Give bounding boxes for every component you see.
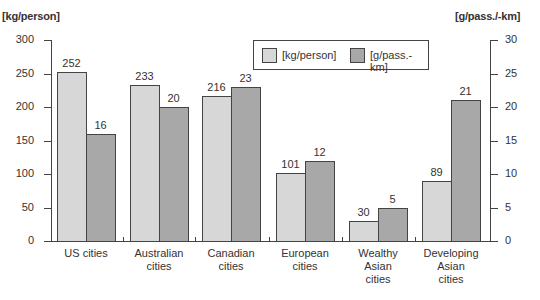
bar-kg-per-person [349, 221, 379, 241]
category-separator-tick [342, 237, 343, 241]
value-label: 20 [154, 92, 194, 104]
value-label: 252 [52, 57, 92, 69]
right-tick-mark [491, 241, 498, 242]
legend-swatch-kg [262, 48, 277, 63]
value-label: 16 [81, 119, 121, 131]
left-tick-label: 0 [4, 234, 34, 246]
category-separator-tick [195, 237, 196, 241]
right-tick-label: 30 [505, 33, 535, 45]
bar-kg-per-person [422, 181, 452, 241]
legend-label-kg: [kg/person] [282, 49, 336, 61]
value-label: 12 [300, 146, 340, 158]
bar-g-per-pass-km [305, 161, 335, 241]
category-separator-tick [415, 237, 416, 241]
right-tick-label: 20 [505, 100, 535, 112]
left-tick-mark [44, 107, 51, 108]
left-tick-label: 300 [4, 33, 34, 45]
right-tick-mark [491, 174, 498, 175]
right-tick-label: 15 [505, 134, 535, 146]
value-label: 21 [446, 85, 486, 97]
category-separator-tick [123, 237, 124, 241]
bar-kg-per-person [276, 173, 306, 241]
category-label: WealthyAsiancities [343, 247, 413, 286]
legend: [kg/person] [g/pass.-km] [253, 40, 429, 70]
bar-g-per-pass-km [231, 87, 261, 241]
right-tick-label: 5 [505, 201, 535, 213]
left-tick-label: 100 [4, 167, 34, 179]
right-axis-label: [g/pass./-km] [455, 10, 520, 22]
category-label: Australiancities [124, 247, 194, 273]
bar-g-per-pass-km [86, 134, 116, 241]
bar-kg-per-person [130, 85, 160, 241]
left-tick-mark [44, 74, 51, 75]
left-axis-label: [kg/person] [2, 10, 60, 22]
bar-g-per-pass-km [378, 208, 408, 242]
right-tick-mark [491, 107, 498, 108]
category-label: Canadiancities [196, 247, 266, 273]
category-separator-tick [269, 237, 270, 241]
bar-g-per-pass-km [451, 100, 481, 241]
legend-label-g: [g/pass.-km] [370, 49, 428, 73]
left-tick-mark [44, 241, 51, 242]
value-label: 23 [226, 72, 266, 84]
left-tick-label: 200 [4, 100, 34, 112]
legend-swatch-g [350, 48, 365, 63]
left-axis-line [51, 40, 52, 242]
category-label: US cities [51, 247, 121, 260]
right-tick-mark [491, 40, 498, 41]
left-tick-mark [44, 208, 51, 209]
right-tick-label: 25 [505, 67, 535, 79]
right-tick-mark [491, 208, 498, 209]
right-tick-mark [491, 74, 498, 75]
left-tick-label: 50 [4, 201, 34, 213]
left-tick-mark [44, 141, 51, 142]
value-label: 233 [125, 70, 165, 82]
category-label: DevelopingAsiancities [416, 247, 486, 286]
bar-kg-per-person [57, 72, 87, 241]
left-tick-label: 250 [4, 67, 34, 79]
bar-kg-per-person [202, 96, 232, 241]
x-axis-line [44, 241, 497, 242]
right-tick-label: 0 [505, 234, 535, 246]
right-tick-label: 10 [505, 167, 535, 179]
left-tick-mark [44, 40, 51, 41]
bar-g-per-pass-km [159, 107, 189, 241]
category-label: Europeancities [270, 247, 340, 273]
right-tick-mark [491, 141, 498, 142]
value-label: 5 [373, 193, 413, 205]
left-tick-label: 150 [4, 134, 34, 146]
left-tick-mark [44, 174, 51, 175]
